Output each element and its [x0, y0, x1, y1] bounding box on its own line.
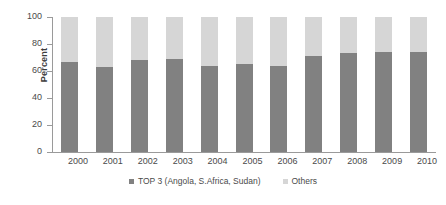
legend-swatch-top3-icon	[129, 179, 134, 184]
y-tick-label: 40	[32, 92, 47, 102]
bar-group[interactable]	[61, 17, 78, 152]
x-axis-label-2010: 2010	[407, 156, 446, 166]
bar-segment-top3[interactable]	[305, 56, 322, 152]
bar-group[interactable]	[96, 17, 113, 152]
bar-segment-top3[interactable]	[96, 67, 113, 152]
legend-label: TOP 3 (Angola, S.Africa, Sudan)	[138, 176, 261, 186]
bar-segment-others[interactable]	[410, 17, 427, 52]
bar-segment-others[interactable]	[201, 17, 218, 66]
bar-group[interactable]	[236, 17, 253, 152]
bar-segment-others[interactable]	[61, 17, 78, 62]
bar-group[interactable]	[201, 17, 218, 152]
chart-legend: TOP 3 (Angola, S.Africa, Sudan)Others	[0, 176, 446, 186]
bar-segment-others[interactable]	[236, 17, 253, 64]
y-tick-label: 20	[32, 119, 47, 129]
bar-segment-top3[interactable]	[61, 62, 78, 152]
bar-segment-top3[interactable]	[270, 66, 287, 152]
bar-segment-others[interactable]	[375, 17, 392, 52]
bar-segment-others[interactable]	[340, 17, 357, 53]
y-tick-0: 0	[47, 152, 52, 153]
legend-item-others[interactable]: Others	[283, 176, 318, 186]
bar-group[interactable]	[131, 17, 148, 152]
bar-segment-top3[interactable]	[340, 53, 357, 152]
legend-label: Others	[292, 176, 318, 186]
bar-group[interactable]	[305, 17, 322, 152]
y-tick-label: 0	[37, 146, 47, 156]
bar-segment-others[interactable]	[131, 17, 148, 60]
bar-segment-others[interactable]	[96, 17, 113, 67]
bar-segment-others[interactable]	[166, 17, 183, 59]
bar-group[interactable]	[410, 17, 427, 152]
bar-group[interactable]	[270, 17, 287, 152]
plot-area	[52, 17, 436, 152]
bar-segment-top3[interactable]	[236, 64, 253, 152]
bar-segment-top3[interactable]	[166, 59, 183, 152]
bar-segment-top3[interactable]	[375, 52, 392, 152]
y-tick-label: 100	[27, 11, 47, 21]
bar-group[interactable]	[340, 17, 357, 152]
bar-group[interactable]	[166, 17, 183, 152]
bar-group[interactable]	[375, 17, 392, 152]
y-tick-label: 80	[32, 38, 47, 48]
x-axis-line	[52, 152, 436, 153]
stacked-bar-chart: Percent 020406080100 2000200120022003200…	[0, 0, 446, 205]
bar-segment-top3[interactable]	[131, 60, 148, 152]
legend-swatch-others-icon	[283, 179, 288, 184]
legend-item-top3[interactable]: TOP 3 (Angola, S.Africa, Sudan)	[129, 176, 261, 186]
y-tick-label: 60	[32, 65, 47, 75]
bar-segment-top3[interactable]	[201, 66, 218, 152]
bar-segment-others[interactable]	[270, 17, 287, 66]
bar-segment-others[interactable]	[305, 17, 322, 56]
bar-segment-top3[interactable]	[410, 52, 427, 152]
